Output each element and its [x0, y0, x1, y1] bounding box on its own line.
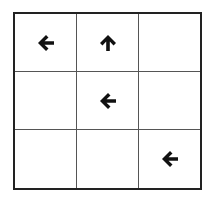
- board-cell-r1-c1[interactable]: [77, 72, 139, 130]
- arrow-up-icon: [98, 33, 118, 53]
- board-cell-r2-c1[interactable]: [77, 130, 139, 188]
- arrow-left-icon: [98, 91, 118, 111]
- board-cell-r0-c0[interactable]: [15, 14, 77, 72]
- board-cell-r1-c0[interactable]: [15, 72, 77, 130]
- board-cell-r1-c2[interactable]: [139, 72, 200, 130]
- board-cell-r0-c2[interactable]: [139, 14, 200, 72]
- board-cell-r2-c0[interactable]: [15, 130, 77, 188]
- game-board: [13, 12, 202, 190]
- board-cell-r2-c2[interactable]: [139, 130, 200, 188]
- arrow-left-icon: [36, 33, 56, 53]
- arrow-left-icon: [160, 149, 180, 169]
- board-cell-r0-c1[interactable]: [77, 14, 139, 72]
